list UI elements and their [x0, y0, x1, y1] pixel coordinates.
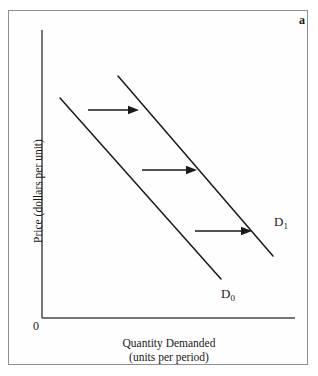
demand-curve-d0	[60, 98, 221, 279]
shift-arrow-bottom	[195, 227, 252, 235]
curve-label-d0-subscript: 0	[230, 293, 235, 303]
x-axis-label: Quantity Demanded (units per period)	[42, 336, 296, 365]
shift-arrow-top	[88, 106, 139, 114]
plot-canvas	[0, 0, 318, 376]
x-axis-label-line1: Quantity Demanded	[42, 336, 296, 350]
curve-label-d1: D1	[274, 215, 288, 228]
curve-label-d0-text: D	[221, 286, 230, 301]
curve-label-d0: D0	[221, 287, 235, 300]
y-axis-label: Price (dollars per unit)	[32, 101, 44, 281]
shift-arrow-middle	[142, 166, 197, 174]
origin-label: 0	[33, 320, 39, 332]
curve-label-d1-subscript: 1	[283, 221, 288, 231]
demand-curve-d1	[118, 76, 273, 256]
curve-label-d1-text: D	[274, 214, 283, 229]
demand-shift-figure: a 0 Price (dollars per unit) Quantity De…	[0, 0, 318, 376]
x-axis-label-line2: (units per period)	[42, 350, 296, 364]
